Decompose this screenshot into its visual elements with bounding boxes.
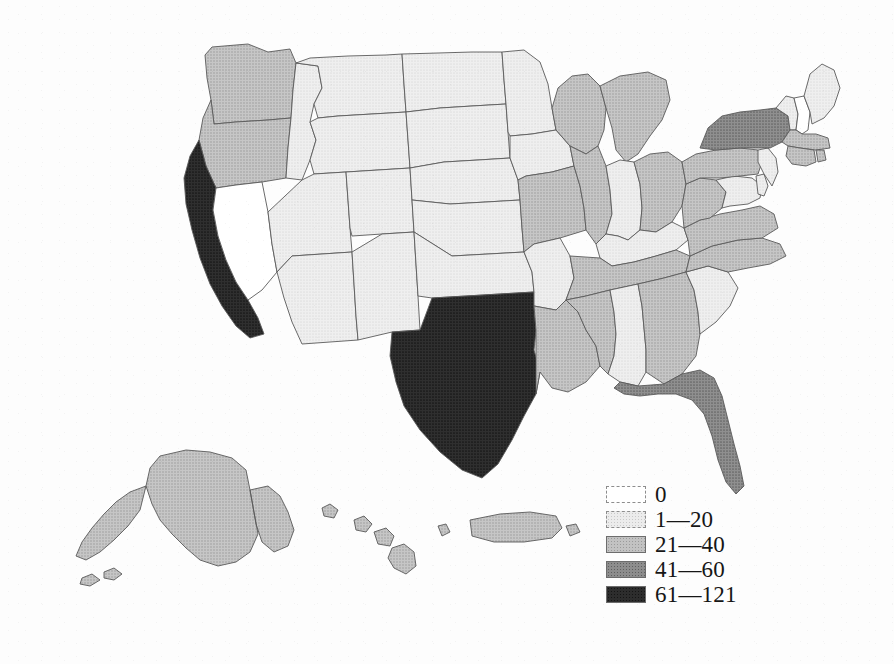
state-WY[interactable]: [310, 112, 410, 174]
legend-item: 61—121: [606, 582, 856, 607]
legend-label-0: 0: [655, 483, 667, 506]
state-NE[interactable]: [410, 158, 520, 204]
state-GA[interactable]: [638, 272, 700, 384]
legend-swatch-1: [606, 511, 646, 528]
state-AZ[interactable]: [277, 252, 358, 344]
legend-item: 1—20: [606, 507, 856, 532]
legend-item: 21—40: [606, 532, 856, 557]
state-SD[interactable]: [406, 104, 510, 168]
legend-swatch-3: [606, 561, 646, 578]
legend-label-2: 21—40: [655, 533, 725, 556]
legend-item: 41—60: [606, 557, 856, 582]
legend-label-3: 41—60: [655, 558, 725, 581]
legend-label-1: 1—20: [655, 508, 713, 531]
legend-swatch-2: [606, 536, 646, 553]
state-WA[interactable]: [205, 44, 296, 124]
state-RI[interactable]: [816, 150, 826, 162]
state-ND[interactable]: [402, 52, 506, 112]
legend-item: 0: [606, 482, 856, 507]
state-AK[interactable]: [76, 450, 294, 586]
state-PR[interactable]: [438, 512, 580, 542]
map-page: 0 1—20 21—40 41—60 61—121: [0, 0, 894, 664]
state-OH[interactable]: [634, 152, 686, 232]
state-FL[interactable]: [614, 370, 744, 494]
map-legend: 0 1—20 21—40 41—60 61—121: [606, 482, 856, 607]
legend-label-4: 61—121: [655, 583, 737, 606]
state-NY[interactable]: [700, 108, 790, 150]
state-MI[interactable]: [600, 72, 670, 162]
legend-swatch-0: [606, 486, 646, 503]
state-NM[interactable]: [352, 232, 420, 340]
state-MO[interactable]: [518, 166, 586, 252]
legend-swatch-4: [606, 586, 646, 603]
state-HI[interactable]: [322, 504, 416, 574]
state-CO[interactable]: [346, 168, 414, 236]
state-MN[interactable]: [502, 50, 556, 136]
